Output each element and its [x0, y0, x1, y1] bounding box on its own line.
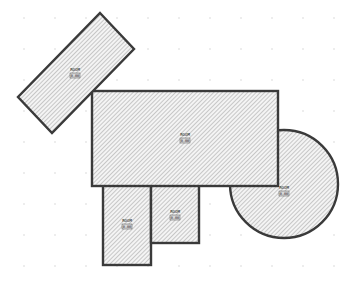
room-lower-mid-label: ROOM — [170, 209, 180, 214]
grid-dot — [23, 172, 25, 174]
room-lower-left-label: ROOM — [122, 218, 132, 223]
grid-dot — [54, 234, 56, 236]
room-rotated-label: ROOM — [70, 67, 80, 72]
grid-dot — [333, 234, 335, 236]
grid-dot — [85, 172, 87, 174]
grid-dot — [116, 17, 118, 19]
grid-dot — [147, 17, 149, 19]
grid-dot — [178, 17, 180, 19]
grid-dot — [302, 110, 304, 112]
grid-dot — [271, 17, 273, 19]
grid-dot — [85, 141, 87, 143]
grid-dot — [240, 234, 242, 236]
grid-dot — [23, 234, 25, 236]
room-circle-code: 0.00 — [280, 192, 288, 196]
grid-dot — [240, 79, 242, 81]
grid-dot — [333, 265, 335, 267]
grid-dot — [240, 265, 242, 267]
room-lower-left-code: 0.00 — [123, 225, 131, 229]
grid-dot — [85, 17, 87, 19]
grid-dot — [85, 110, 87, 112]
room-lower-mid[interactable]: ROOM 0.00 — [151, 185, 199, 243]
grid-dot — [333, 141, 335, 143]
room-lower-mid-code: 0.00 — [171, 216, 179, 220]
grid-dot — [240, 48, 242, 50]
grid-dot — [302, 265, 304, 267]
grid-dot — [209, 17, 211, 19]
grid-dot — [54, 265, 56, 267]
room-main-code: 0.00 — [181, 139, 189, 143]
grid-dot — [54, 48, 56, 50]
grid-dot — [333, 48, 335, 50]
grid-dot — [85, 265, 87, 267]
room-main-label: ROOM — [180, 132, 190, 137]
grid-dot — [333, 79, 335, 81]
grid-dot — [23, 48, 25, 50]
grid-dot — [333, 110, 335, 112]
grid-dot — [147, 48, 149, 50]
floor-plan-svg: ROOM 0.00 ROOM 0.00 ROOM 0.00 ROOM 0.00 — [0, 0, 344, 281]
grid-dot — [209, 48, 211, 50]
grid-dot — [271, 48, 273, 50]
room-circle-label: ROOM — [279, 185, 289, 190]
grid-dot — [54, 203, 56, 205]
grid-dot — [240, 17, 242, 19]
grid-dot — [178, 48, 180, 50]
grid-dot — [23, 203, 25, 205]
grid-dot — [54, 141, 56, 143]
grid-dot — [209, 265, 211, 267]
grid-dot — [302, 79, 304, 81]
grid-dot — [23, 141, 25, 143]
room-main[interactable]: ROOM 0.00 — [92, 91, 278, 186]
room-lower-left[interactable]: ROOM 0.00 — [103, 185, 151, 265]
grid-dot — [178, 265, 180, 267]
grid-dot — [23, 110, 25, 112]
grid-dot — [85, 203, 87, 205]
grid-dot — [209, 79, 211, 81]
grid-dot — [178, 79, 180, 81]
grid-dot — [54, 172, 56, 174]
grid-dot — [209, 234, 211, 236]
grid-dot — [302, 48, 304, 50]
grid-dot — [54, 17, 56, 19]
room-lower-mid-shape[interactable] — [151, 185, 199, 243]
room-rotated-code: 0.00 — [71, 74, 79, 78]
grid-dot — [147, 79, 149, 81]
floor-plan-canvas: ROOM 0.00 ROOM 0.00 ROOM 0.00 ROOM 0.00 — [0, 0, 344, 281]
grid-dot — [333, 17, 335, 19]
grid-dot — [23, 265, 25, 267]
grid-dot — [302, 17, 304, 19]
grid-dot — [23, 17, 25, 19]
grid-dot — [271, 265, 273, 267]
grid-dot — [209, 203, 211, 205]
grid-dot — [23, 79, 25, 81]
grid-dot — [85, 234, 87, 236]
grid-dot — [116, 79, 118, 81]
grid-dot — [271, 79, 273, 81]
